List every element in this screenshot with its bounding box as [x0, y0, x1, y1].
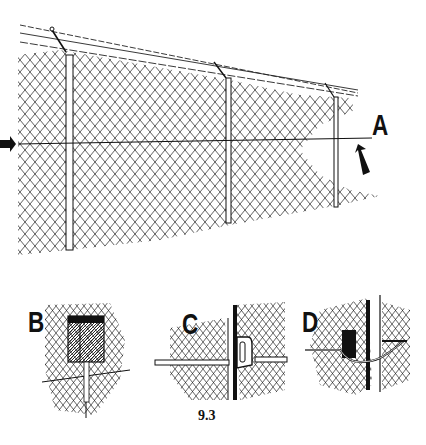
inset-c: [155, 302, 287, 400]
arrow-right-icon: [0, 136, 16, 152]
inset-b: [42, 303, 130, 418]
inset-label-c: C: [182, 307, 198, 341]
fence-diagram: [0, 0, 426, 445]
callout-label-a: A: [372, 108, 388, 142]
inset-label-d: D: [302, 305, 318, 339]
arrow-up-icon: [355, 144, 370, 175]
inset-d: [305, 295, 410, 395]
figure-caption: 9.3: [198, 408, 216, 424]
inset-label-b: B: [28, 305, 44, 339]
